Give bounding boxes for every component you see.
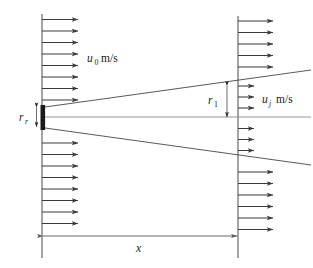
jet-radius-symbol: r (208, 94, 213, 106)
jet-velocity-label: u j m/s (262, 93, 293, 108)
nozzle-radius-subscript: r (25, 117, 29, 126)
left-coflow-arrows-upper (42, 20, 78, 101)
jet-velocity-subscript: j (268, 99, 271, 108)
right-coflow-arrows-lower (238, 172, 273, 230)
jet-boundary-lower (45, 128, 311, 165)
jet-diagram-canvas: u 0 m/s u j m/s r r r 1 x (0, 0, 313, 268)
jet-diagram-figure: u 0 m/s u j m/s r r r 1 x (0, 0, 313, 268)
right-jet-arrows (238, 86, 254, 151)
inlet-velocity-subscript: 0 (95, 58, 99, 67)
streamwise-distance-label: x (135, 242, 142, 254)
inlet-velocity-symbol: u (87, 52, 93, 64)
nozzle-orifice-block (41, 105, 46, 130)
jet-velocity-units: m/s (276, 93, 293, 105)
inlet-velocity-label: u 0 m/s (87, 52, 118, 67)
jet-velocity-symbol: u (262, 93, 268, 105)
jet-radius-subscript: 1 (214, 100, 218, 109)
left-coflow-arrows-lower (42, 143, 78, 224)
nozzle-radius-symbol: r (19, 111, 24, 123)
right-coflow-arrows-upper (238, 21, 273, 67)
jet-radius-label: r 1 (208, 94, 218, 109)
nozzle-radius-label: r r (19, 111, 29, 126)
inlet-velocity-units: m/s (101, 52, 118, 64)
